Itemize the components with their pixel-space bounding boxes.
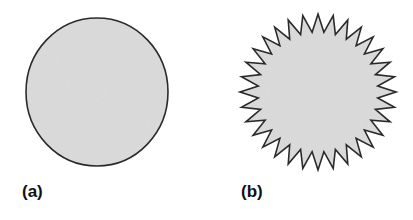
spiky-star-shape (240, 14, 396, 170)
figure-canvas (0, 0, 413, 220)
circle-shape (26, 18, 168, 166)
panel-label-a: (a) (22, 182, 43, 202)
panel-label-b: (b) (241, 182, 263, 202)
